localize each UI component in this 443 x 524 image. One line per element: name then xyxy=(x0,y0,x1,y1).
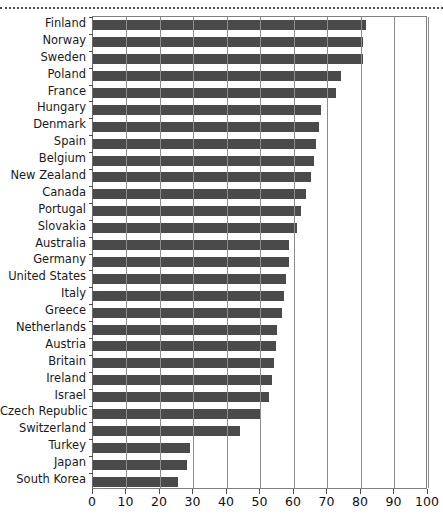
bar xyxy=(93,71,341,81)
category-label: Portugal xyxy=(0,204,86,216)
category-label: Austria xyxy=(0,339,86,351)
y-tick xyxy=(89,186,93,187)
y-tick xyxy=(89,17,93,18)
y-tick xyxy=(89,389,93,390)
category-label: United States xyxy=(0,271,86,283)
bar xyxy=(93,54,363,64)
x-tick-50 xyxy=(259,489,260,494)
x-axis-label-20: 20 xyxy=(151,494,167,509)
category-label: Australia xyxy=(0,238,86,250)
bar xyxy=(93,105,321,115)
x-axis-label-60: 60 xyxy=(285,494,301,509)
y-tick xyxy=(89,473,93,474)
bar xyxy=(93,37,363,47)
x-tick-80 xyxy=(360,489,361,494)
x-axis-label-70: 70 xyxy=(319,494,335,509)
y-tick xyxy=(89,321,93,322)
bar xyxy=(93,341,276,351)
category-label: Britain xyxy=(0,356,86,368)
y-tick xyxy=(89,456,93,457)
x-tick-0 xyxy=(92,489,93,494)
bar xyxy=(93,274,286,284)
bar xyxy=(93,308,282,318)
y-tick xyxy=(89,338,93,339)
category-label: France xyxy=(0,86,86,98)
category-label: Israel xyxy=(0,390,86,402)
category-label: Czech Republic xyxy=(0,406,86,418)
bar xyxy=(93,477,178,487)
gridline-10 xyxy=(126,17,127,488)
bar xyxy=(93,392,269,402)
y-tick xyxy=(89,152,93,153)
category-label: Finland xyxy=(0,18,86,30)
bar xyxy=(93,223,297,233)
x-tick-10 xyxy=(125,489,126,494)
gridline-20 xyxy=(160,17,161,488)
x-axis-label-40: 40 xyxy=(218,494,234,509)
bar xyxy=(93,291,284,301)
x-axis-label-0: 0 xyxy=(88,494,96,509)
x-tick-70 xyxy=(326,489,327,494)
horizontal-bar-chart: FinlandNorwaySwedenPolandFranceHungaryDe… xyxy=(0,0,443,524)
category-label: Japan xyxy=(0,457,86,469)
x-axis-label-30: 30 xyxy=(185,494,201,509)
gridline-40 xyxy=(227,17,228,488)
category-label: Ireland xyxy=(0,373,86,385)
category-label: Hungary xyxy=(0,102,86,114)
x-tick-60 xyxy=(293,489,294,494)
gridline-60 xyxy=(294,17,295,488)
bar xyxy=(93,358,274,368)
x-axis-label-90: 90 xyxy=(386,494,402,509)
y-tick xyxy=(89,220,93,221)
bar xyxy=(93,426,240,436)
y-tick xyxy=(89,203,93,204)
gridline-70 xyxy=(327,17,328,488)
bar xyxy=(93,375,272,385)
x-tick-90 xyxy=(393,489,394,494)
category-label: Denmark xyxy=(0,119,86,131)
category-label: Canada xyxy=(0,187,86,199)
x-axis-label-80: 80 xyxy=(352,494,368,509)
bar xyxy=(93,443,190,453)
x-axis-label-10: 10 xyxy=(118,494,134,509)
y-tick xyxy=(89,254,93,255)
bar xyxy=(93,20,366,30)
y-tick xyxy=(89,34,93,35)
y-tick xyxy=(89,406,93,407)
category-label: Netherlands xyxy=(0,322,86,334)
y-tick xyxy=(89,68,93,69)
y-tick xyxy=(89,372,93,373)
category-axis-labels: FinlandNorwaySwedenPolandFranceHungaryDe… xyxy=(0,16,88,489)
category-label: Italy xyxy=(0,288,86,300)
plot-area xyxy=(92,16,427,489)
category-label: Greece xyxy=(0,305,86,317)
y-tick xyxy=(89,304,93,305)
bar xyxy=(93,325,277,335)
bar xyxy=(93,409,261,419)
y-tick xyxy=(89,85,93,86)
y-tick xyxy=(89,422,93,423)
gridline-30 xyxy=(193,17,194,488)
y-tick xyxy=(89,135,93,136)
category-label: Switzerland xyxy=(0,423,86,435)
bar xyxy=(93,88,336,98)
y-tick xyxy=(89,439,93,440)
x-tick-30 xyxy=(192,489,193,494)
category-label: Belgium xyxy=(0,153,86,165)
x-axis-label-50: 50 xyxy=(252,494,268,509)
gridline-80 xyxy=(361,17,362,488)
y-tick xyxy=(89,169,93,170)
y-tick xyxy=(89,270,93,271)
bar xyxy=(93,460,187,470)
gridline-90 xyxy=(394,17,395,488)
y-tick xyxy=(89,101,93,102)
category-label: Norway xyxy=(0,35,86,47)
x-tick-100 xyxy=(427,489,428,494)
category-label: Poland xyxy=(0,69,86,81)
y-tick xyxy=(89,355,93,356)
category-label: Turkey xyxy=(0,440,86,452)
gridline-100 xyxy=(428,17,429,488)
gridline-50 xyxy=(260,17,261,488)
bar xyxy=(93,206,301,216)
value-axis-labels: 0102030405060708090100 xyxy=(0,494,443,516)
